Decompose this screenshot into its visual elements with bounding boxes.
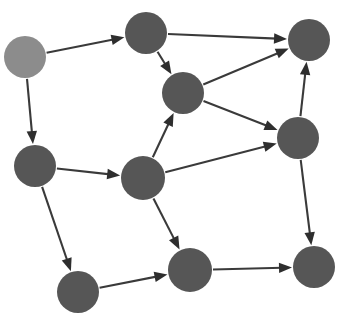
graph-edge: [153, 113, 174, 157]
edge-line: [301, 160, 310, 235]
edge-line: [168, 34, 277, 39]
graph-node-n4: [162, 72, 204, 114]
edge-arrowhead-icon: [62, 257, 72, 271]
graph-edge: [203, 101, 277, 130]
edge-arrowhead-icon: [263, 142, 277, 152]
graph-edge: [213, 263, 292, 273]
edge-line: [165, 146, 267, 172]
edge-line: [203, 101, 268, 126]
graph-node-n1: [4, 36, 46, 78]
graph-edge: [158, 52, 172, 75]
edge-line: [153, 122, 170, 157]
edge-line: [203, 52, 279, 84]
graph-edge: [300, 62, 310, 116]
graph-edge: [165, 142, 276, 173]
edge-arrowhead-icon: [27, 131, 37, 144]
edge-arrowhead-icon: [111, 35, 125, 45]
graph-node-n6: [121, 156, 165, 200]
graph-edge: [47, 35, 125, 53]
graph-edge: [153, 198, 179, 249]
edge-arrowhead-icon: [300, 62, 310, 76]
graph-node-n9: [168, 248, 212, 292]
edge-line: [57, 168, 110, 174]
graph-canvas: [0, 0, 342, 323]
graph-edge: [168, 33, 287, 43]
edge-line: [300, 72, 305, 116]
edge-arrowhead-icon: [160, 60, 171, 74]
graph-node-n7: [277, 117, 319, 159]
edge-line: [153, 198, 175, 240]
graph-node-n3: [288, 19, 330, 61]
edge-line: [213, 268, 282, 270]
graph-node-n8: [57, 271, 99, 313]
edge-arrowhead-icon: [275, 49, 289, 59]
graph-node-n5: [14, 145, 56, 187]
graph-edge: [57, 168, 120, 179]
edge-arrowhead-icon: [279, 263, 292, 273]
graph-node-n2: [125, 12, 167, 54]
graph-edge: [27, 79, 37, 144]
graph-edge: [301, 160, 315, 245]
edge-arrowhead-icon: [274, 33, 287, 43]
graph-edge: [42, 187, 72, 271]
edge-arrowhead-icon: [264, 120, 278, 130]
graph-edge: [100, 272, 168, 288]
edge-line: [42, 187, 68, 262]
edge-arrowhead-icon: [169, 236, 180, 250]
edge-arrowhead-icon: [163, 113, 173, 127]
edge-arrowhead-icon: [305, 232, 315, 246]
graph-node-n10: [293, 246, 335, 288]
edge-arrowhead-icon: [107, 169, 120, 179]
directed-graph-figure: [0, 0, 342, 323]
edge-arrowhead-icon: [154, 272, 168, 282]
edge-line: [100, 276, 158, 287]
edges-layer: [27, 33, 315, 287]
edge-line: [47, 39, 115, 52]
graph-edge: [203, 49, 288, 85]
edge-line: [27, 79, 32, 134]
